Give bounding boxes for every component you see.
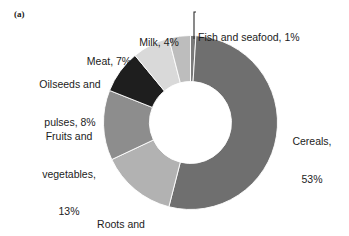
slice-label-cereals-line2: 53% <box>282 173 342 186</box>
slice-label-fruits-line2: vegetables, <box>22 168 116 181</box>
slice-label-cereals-line1: Cereals, <box>282 135 342 148</box>
slice-label-roots: Roots and tubers, 14% <box>72 193 170 236</box>
slice-label-fish-line1: Fish and seafood, 1% <box>198 31 300 44</box>
slice-label-fish: Fish and seafood, 1% <box>198 6 300 69</box>
slice-label-oilseeds-line1: Oilseeds and <box>24 78 116 91</box>
slice-label-cereals: Cereals, 53% <box>282 110 342 210</box>
figure-container: (a) Fish and seafood, 1% Milk, 4% Meat, … <box>0 0 349 236</box>
slice-label-fruits-line1: Fruits and <box>22 130 116 143</box>
fish-leader-line <box>194 12 196 39</box>
slice-label-roots-line1: Roots and <box>72 218 170 231</box>
